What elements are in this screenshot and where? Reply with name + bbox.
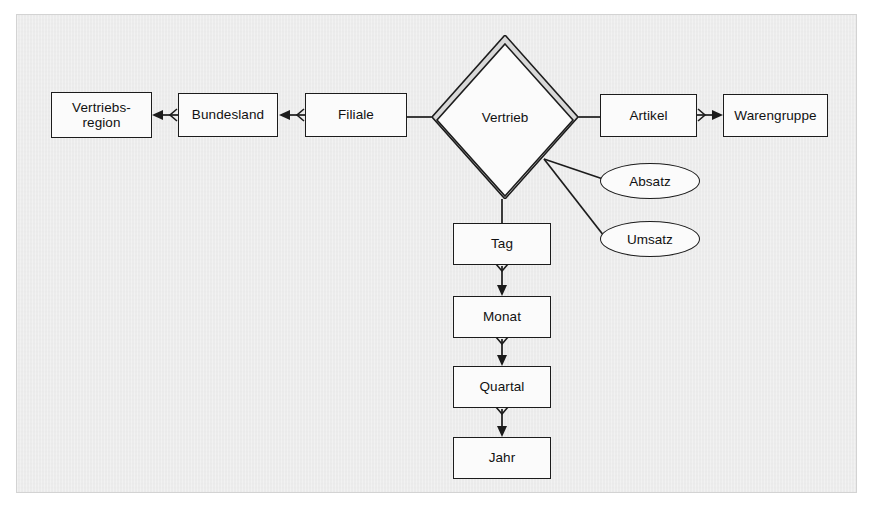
entity-label: Tag xyxy=(491,236,513,251)
diamond-shape xyxy=(432,35,578,199)
entity-label: Artikel xyxy=(629,108,667,123)
entity-jahr[interactable]: Jahr xyxy=(453,437,551,479)
arrowhead-quartal xyxy=(497,355,507,366)
entity-label: Bundesland xyxy=(192,107,264,122)
arrowhead-monat xyxy=(497,285,507,296)
attribute-label: Absatz xyxy=(629,174,670,189)
entity-label: Monat xyxy=(483,309,521,324)
entity-bundesland[interactable]: Bundesland xyxy=(178,93,278,137)
entity-label: Quartal xyxy=(480,379,525,394)
entity-monat[interactable]: Monat xyxy=(453,296,551,338)
attribute-umsatz[interactable]: Umsatz xyxy=(600,221,700,257)
arrowhead-warengruppe xyxy=(712,110,723,120)
arrowhead-jahr xyxy=(497,426,507,437)
attribute-label: Umsatz xyxy=(627,232,673,247)
entity-quartal[interactable]: Quartal xyxy=(453,366,551,408)
entity-filiale[interactable]: Filiale xyxy=(305,93,407,137)
relationship-vertrieb[interactable]: Vertrieb xyxy=(432,35,578,199)
arrowhead-bundesland xyxy=(279,110,290,120)
entity-label: Jahr xyxy=(489,450,516,465)
entity-tag[interactable]: Tag xyxy=(453,223,551,265)
arrowhead-vertriebsregion xyxy=(152,110,163,120)
er-diagram-canvas: Vertrieb Vertriebs- region Bundesland Fi… xyxy=(0,0,873,517)
entity-label: Warengruppe xyxy=(734,108,816,123)
entity-label: Vertriebs- region xyxy=(72,100,131,130)
entity-vertriebsregion[interactable]: Vertriebs- region xyxy=(51,92,152,138)
entity-artikel[interactable]: Artikel xyxy=(600,94,697,137)
attribute-absatz[interactable]: Absatz xyxy=(600,163,700,199)
entity-warengruppe[interactable]: Warengruppe xyxy=(723,94,828,137)
entity-label: Filiale xyxy=(338,107,374,122)
